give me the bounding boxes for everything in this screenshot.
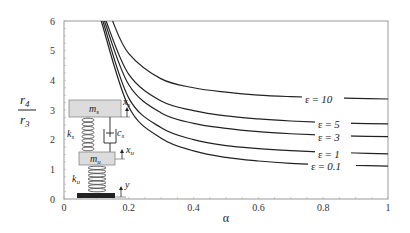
x-tick-label: 0 xyxy=(62,202,67,213)
y-axis-ticks: 0123456 xyxy=(50,16,55,205)
curve-label: ε = 10 xyxy=(305,93,333,105)
quarter-car-inset: ms xs ks cs mu xu ku y xyxy=(67,96,134,198)
x-axis-label: α xyxy=(223,211,230,225)
disp-u-label: xu xyxy=(125,144,134,157)
y-tick-label: 1 xyxy=(50,164,55,175)
y-axis-label: r4 r3 xyxy=(18,92,36,129)
y-tick-label: 0 xyxy=(50,194,55,205)
spring-s-label: ks xyxy=(67,128,74,141)
x-tick-label: 1 xyxy=(386,202,391,213)
curve-label: ε = 1 xyxy=(318,148,340,160)
curve-eps-5 xyxy=(103,9,388,124)
y-tick-label: 2 xyxy=(50,134,55,145)
y-tick-label: 4 xyxy=(50,75,55,86)
y-tick-label: 3 xyxy=(50,105,55,116)
spring-u-label: ku xyxy=(72,173,80,186)
road-base xyxy=(77,193,115,198)
arrow-up-icon xyxy=(119,186,123,190)
chart: 0123456 00.20.40.60.81 α r4 r3 ε = 10ε =… xyxy=(0,0,410,233)
disp-road-label: y xyxy=(124,179,130,190)
x-tick-label: 0.8 xyxy=(317,202,330,213)
curve-labels: ε = 10ε = 5ε = 3ε = 1ε = 0.1 xyxy=(302,93,356,172)
spring-u-icon xyxy=(88,166,106,192)
curve-label: ε = 0.1 xyxy=(311,160,341,172)
y-tick-label: 6 xyxy=(50,16,55,27)
damper-icon xyxy=(104,117,116,152)
y-tick-label: 5 xyxy=(50,45,55,56)
spring-s-icon xyxy=(82,118,94,151)
curve-eps-10 xyxy=(110,9,388,99)
x-tick-label: 0.4 xyxy=(187,202,200,213)
svg-text:r3: r3 xyxy=(20,112,30,129)
x-tick-label: 0.2 xyxy=(123,202,136,213)
x-tick-label: 0.6 xyxy=(252,202,265,213)
arrow-up-icon xyxy=(120,149,124,153)
damper-label: cs xyxy=(117,127,124,140)
svg-text:r4: r4 xyxy=(20,92,30,109)
curve-label: ε = 3 xyxy=(318,131,340,143)
curve-label: ε = 5 xyxy=(318,118,340,130)
